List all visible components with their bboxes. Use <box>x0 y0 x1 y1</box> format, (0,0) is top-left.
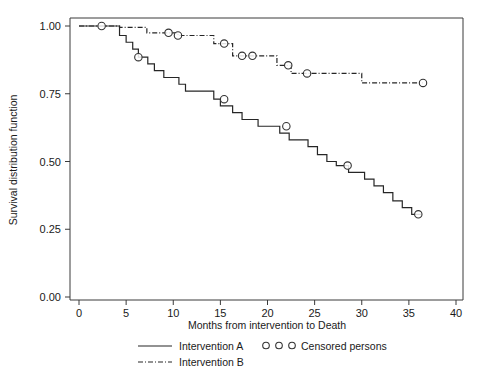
legend-circle-3-icon <box>289 342 296 349</box>
y-axis-title: Survival distribution function <box>7 94 19 225</box>
censored-marker-curve-intervention-b <box>165 29 172 36</box>
legend-label-intervention-a: Intervention A <box>179 340 243 352</box>
censored-marker-curve-intervention-a <box>135 53 142 60</box>
x-tick-label: 15 <box>214 307 226 319</box>
censored-marker-curve-intervention-a <box>283 123 290 130</box>
x-tick-label: 35 <box>403 307 415 319</box>
legend-circle-1-icon <box>263 342 270 349</box>
plot-frame <box>70 18 463 300</box>
legend-circle-2-icon <box>276 342 283 349</box>
legend-label-intervention-b: Intervention B <box>179 356 244 368</box>
x-axis-ticks: 0510152025303540 <box>76 300 462 319</box>
x-tick-label: 10 <box>167 307 179 319</box>
censored-marker-curve-intervention-b <box>419 79 426 86</box>
y-tick-label: 0.25 <box>40 223 61 235</box>
censored-marker-curve-intervention-b <box>220 40 227 47</box>
x-tick-label: 40 <box>450 307 462 319</box>
x-tick-label: 5 <box>123 307 129 319</box>
censored-marker-curve-intervention-a <box>344 162 351 169</box>
y-tick-label: 1.00 <box>40 20 61 32</box>
plot-frame-box <box>70 18 463 300</box>
censored-marker-curve-intervention-a <box>415 211 422 218</box>
y-axis-ticks: 0.000.250.500.751.00 <box>40 20 70 303</box>
y-tick-label: 0.00 <box>40 291 61 303</box>
censored-markers <box>98 22 427 218</box>
censored-marker-curve-intervention-b <box>303 70 310 77</box>
x-tick-label: 0 <box>76 307 82 319</box>
censored-marker-curve-intervention-b <box>98 22 105 29</box>
censored-marker-curve-intervention-b <box>238 52 245 59</box>
y-tick-label: 0.50 <box>40 156 61 168</box>
x-tick-label: 30 <box>356 307 368 319</box>
x-tick-label: 20 <box>261 307 273 319</box>
x-tick-label: 25 <box>309 307 321 319</box>
km-plot-svg: 0510152025303540 0.000.250.500.751.00 Mo… <box>0 0 487 385</box>
x-axis-title: Months from intervention to Death <box>188 319 346 331</box>
censored-marker-curve-intervention-b <box>285 62 292 69</box>
y-tick-label: 0.75 <box>40 88 61 100</box>
survival-chart-figure: 0510152025303540 0.000.250.500.751.00 Mo… <box>0 0 487 385</box>
censored-marker-curve-intervention-b <box>249 52 256 59</box>
chart-legend: Intervention A Intervention B Censored p… <box>138 340 387 368</box>
censored-marker-curve-intervention-a <box>220 95 227 102</box>
censored-marker-curve-intervention-b <box>174 32 181 39</box>
legend-label-censored-persons: Censored persons <box>301 340 387 352</box>
